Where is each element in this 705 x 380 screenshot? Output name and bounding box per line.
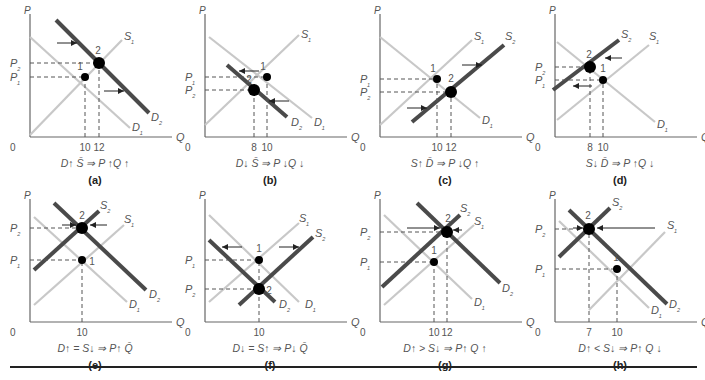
graph-h: PQ0S₁D₁S₂D₂P₂P₁71012 bbox=[535, 195, 700, 340]
equilibrium-point-2 bbox=[441, 226, 453, 238]
quantity-label: 10 bbox=[261, 142, 273, 153]
panel-h: PQ0S₁D₁S₂D₂P₂P₁71012D↑ < S↓ ⇒ P↑ Q ↓(h) bbox=[535, 195, 700, 344]
panel-e: PQ0S₁D₁S₂D₂P₂P₁1012D↑ = S↓ ⇒ P↑ Q̄(e) bbox=[10, 195, 175, 344]
origin-label: 0 bbox=[10, 142, 16, 153]
curve-label: D₁ bbox=[474, 296, 485, 311]
quantity-label: 12 bbox=[445, 142, 457, 153]
price-label: P₂ bbox=[360, 86, 370, 101]
curve-label: S₁ bbox=[667, 219, 677, 234]
panel-caption: D↓ S̄ ⇒ P ↓Q ↓ bbox=[185, 157, 355, 169]
panel-f: PQ0S₁D₁D₂S₂P₁P₂1012D↓ = S↑ ⇒ P↓ Q̄(f) bbox=[185, 195, 350, 344]
quantity-label: 10 bbox=[431, 142, 443, 153]
q-axis-label: Q bbox=[701, 316, 705, 328]
price-label: P₂ bbox=[185, 283, 195, 298]
quantity-label: 10 bbox=[76, 327, 88, 338]
curve-label: S₁ bbox=[124, 30, 134, 45]
panel-label: (a) bbox=[10, 174, 180, 186]
curve-label: D₂ bbox=[669, 298, 680, 313]
p-axis-label: P bbox=[374, 190, 381, 201]
panel-caption: S↓ D̄ ⇒ P ↑Q ↓ bbox=[535, 157, 705, 169]
curve-label: S₁ bbox=[301, 28, 311, 43]
panel-label: (f) bbox=[185, 359, 355, 371]
q-axis-label: Q bbox=[176, 131, 185, 143]
price-label: P₁ bbox=[10, 254, 20, 269]
origin-label: 0 bbox=[185, 142, 191, 153]
curve-S₁ bbox=[34, 225, 124, 305]
equilibrium-point-2 bbox=[253, 283, 265, 295]
graph-a: PQ0S₁D₁D₂P₂P₁101212 bbox=[10, 10, 175, 155]
graph-d: PQ0S₁D₁S₂P₂P₁81012 bbox=[535, 10, 700, 155]
price-label: P₂ bbox=[185, 84, 195, 99]
curve-label: S₂ bbox=[621, 28, 631, 43]
curve-S₁ bbox=[30, 40, 122, 135]
curve-label: S₂ bbox=[612, 196, 622, 211]
quantity-label: 10 bbox=[428, 327, 440, 338]
quantity-label: 10 bbox=[79, 142, 91, 153]
arrow-head-icon bbox=[453, 227, 459, 233]
price-label: P₁ bbox=[535, 74, 545, 89]
q-axis-label: Q bbox=[351, 131, 360, 143]
p-axis-label: P bbox=[374, 5, 381, 16]
origin-label: 0 bbox=[535, 327, 541, 338]
equilibrium-label: 2 bbox=[95, 45, 101, 56]
q-axis-label: Q bbox=[176, 316, 185, 328]
panel-b: PQ0S₁D₁D₂P₁P₂81012D↓ S̄ ⇒ P ↓Q ↓(b) bbox=[185, 10, 350, 159]
q-axis-label: Q bbox=[526, 131, 535, 143]
equilibrium-label: 1 bbox=[89, 256, 95, 267]
q-axis-label: Q bbox=[701, 131, 705, 143]
curve-label: D₂ bbox=[151, 111, 162, 126]
p-axis-label: P bbox=[199, 190, 206, 201]
quantity-label: 12 bbox=[93, 142, 105, 153]
graph-e: PQ0S₁D₁S₂D₂P₂P₁1012 bbox=[10, 195, 175, 340]
equilibrium-label: 1 bbox=[77, 61, 83, 72]
equilibrium-point-1 bbox=[433, 75, 441, 83]
graph-f: PQ0S₁D₁D₂S₂P₁P₂1012 bbox=[185, 195, 350, 340]
curve-label: S₂ bbox=[505, 30, 515, 45]
equilibrium-point-2 bbox=[584, 61, 596, 73]
quantity-label: 8 bbox=[251, 142, 257, 153]
p-axis-label: P bbox=[24, 190, 31, 201]
arrow-head-icon bbox=[573, 83, 579, 89]
bottom-rule bbox=[10, 366, 697, 368]
curve-label: S₁ bbox=[474, 215, 484, 230]
equilibrium-label: 2 bbox=[586, 49, 592, 60]
price-label: P₁ bbox=[535, 263, 545, 278]
panel-label: (g) bbox=[360, 359, 530, 371]
equilibrium-label: 1 bbox=[431, 245, 437, 256]
graph-g: PQ0S₁D₁S₂D₂P₂P₁101212 bbox=[360, 195, 525, 340]
equilibrium-label: 1 bbox=[600, 63, 606, 74]
equilibrium-point-2 bbox=[248, 84, 260, 96]
panel-caption: D↑ < S↓ ⇒ P↑ Q ↓ bbox=[535, 342, 705, 354]
curve-label: D₁ bbox=[657, 118, 668, 133]
curve-label: S₁ bbox=[299, 212, 309, 227]
origin-label: 0 bbox=[10, 327, 16, 338]
curve-label: D₂ bbox=[149, 288, 160, 303]
equilibrium-point-1 bbox=[430, 258, 438, 266]
panel-label: (h) bbox=[535, 359, 705, 371]
equilibrium-label: 2 bbox=[266, 285, 272, 296]
panel-g: PQ0S₁D₁S₂D₂P₂P₁101212D↑ > S↓ ⇒ P↑ Q ↑(g) bbox=[360, 195, 525, 344]
arrow-head-icon bbox=[605, 55, 611, 61]
curve-label: D₁ bbox=[314, 116, 325, 131]
curve-label: S₁ bbox=[649, 30, 659, 45]
price-label: P₂ bbox=[535, 223, 545, 238]
origin-label: 0 bbox=[535, 142, 541, 153]
origin-label: 0 bbox=[185, 327, 191, 338]
arrow-head-icon bbox=[239, 68, 245, 74]
curve-label: S₂ bbox=[100, 199, 110, 214]
curve-label: S₂ bbox=[315, 227, 325, 242]
curve-label: D₁ bbox=[132, 121, 143, 136]
curve-label: S₂ bbox=[460, 202, 470, 217]
quantity-label: 10 bbox=[611, 327, 623, 338]
curve-label: D₂ bbox=[291, 116, 302, 131]
panel-caption: D↑ > S↓ ⇒ P↑ Q ↑ bbox=[360, 342, 530, 354]
equilibrium-point-1 bbox=[81, 73, 89, 81]
curve-S₁ bbox=[205, 35, 299, 125]
panel-label: (d) bbox=[535, 174, 705, 186]
curve-label: S₁ bbox=[124, 213, 134, 228]
panel-caption: S↑ D̄ ⇒ P ↓Q ↑ bbox=[360, 157, 530, 169]
panel-d: PQ0S₁D₁S₂P₂P₁81012S↓ D̄ ⇒ P ↑Q ↓(d) bbox=[535, 10, 700, 159]
curve-label: D₁ bbox=[305, 298, 316, 313]
graph-c: PQ0S₁D₁S₂P₁P₂101212 bbox=[360, 10, 525, 155]
price-label: P₁ bbox=[185, 254, 195, 269]
